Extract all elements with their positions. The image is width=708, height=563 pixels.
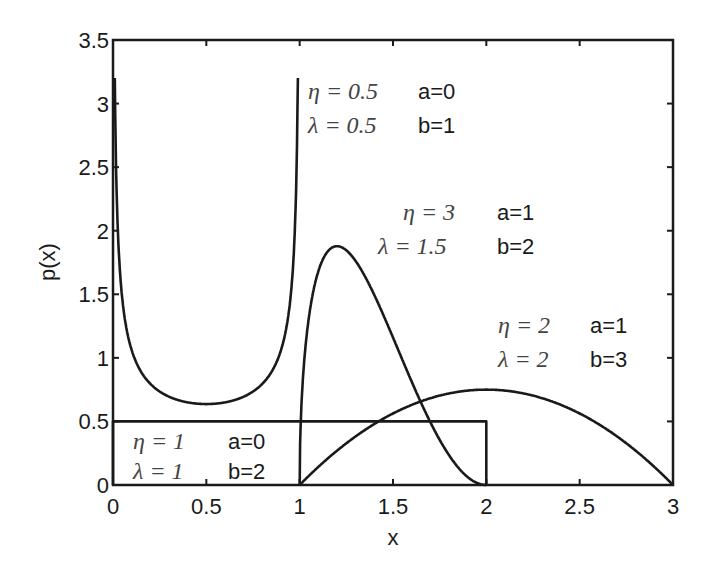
annotation-b: b=2 xyxy=(228,459,265,484)
y-tick-label: 0 xyxy=(97,473,109,498)
annotation-eta: η = 0.5 xyxy=(308,78,378,104)
annotation-a: a=1 xyxy=(497,200,534,225)
annotation-b: b=3 xyxy=(590,347,627,372)
annotation-a: a=0 xyxy=(418,79,455,104)
y-tick-label: 1.5 xyxy=(78,282,109,307)
annotation-lambda: λ = 0.5 xyxy=(307,112,377,138)
annotation-uniform: η = 1 a=0 λ = 1 b=2 xyxy=(132,428,265,484)
x-tick-label: 0.5 xyxy=(191,494,222,519)
annotation-skewed: η = 3 a=1 λ = 1.5 b=2 xyxy=(377,199,534,259)
y-tick-label: 0.5 xyxy=(78,409,109,434)
x-tick-label: 1.5 xyxy=(378,494,409,519)
curve-series-1 xyxy=(300,246,487,485)
annotation-a: a=1 xyxy=(590,313,627,338)
x-tick-label: 2 xyxy=(480,494,492,519)
y-tick-label: 3.5 xyxy=(78,28,109,53)
curves xyxy=(113,78,673,485)
x-axis-label: x xyxy=(388,525,399,550)
annotation-b: b=2 xyxy=(497,234,534,259)
y-tick-label: 3 xyxy=(97,92,109,117)
y-tick-label: 2.5 xyxy=(78,155,109,180)
y-axis-label: p(x) xyxy=(35,243,60,281)
y-tick-label: 2 xyxy=(97,219,109,244)
annotation-a: a=0 xyxy=(228,429,265,454)
annotation-lambda: λ = 2 xyxy=(497,346,549,372)
y-tick-label: 1 xyxy=(97,346,109,371)
annotation-lambda: λ = 1 xyxy=(132,458,184,484)
x-tick-label: 2.5 xyxy=(564,494,595,519)
annotation-arcsine: η = 0.5 a=0 λ = 0.5 b=1 xyxy=(307,78,455,138)
annotation-b: b=1 xyxy=(418,113,455,138)
curve-series-0 xyxy=(115,78,298,404)
annotation-eta: η = 3 xyxy=(403,199,455,225)
x-tick-label: 1 xyxy=(294,494,306,519)
annotation-symmetric: η = 2 a=1 λ = 2 b=3 xyxy=(497,312,627,372)
x-tick-label: 3 xyxy=(667,494,679,519)
annotation-eta: η = 2 xyxy=(498,312,550,338)
chart: 00.511.522.5300.511.522.533.5 x p(x) η =… xyxy=(0,0,708,563)
annotation-lambda: λ = 1.5 xyxy=(377,233,447,259)
annotation-eta: η = 1 xyxy=(133,428,185,454)
